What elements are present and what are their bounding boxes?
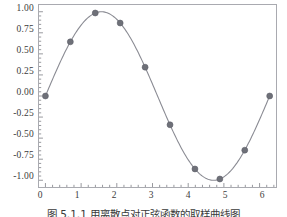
- y-tick-label: -0.50: [0, 129, 34, 139]
- y-tick-label: 0.50: [0, 45, 34, 55]
- data-point-marker: [67, 39, 73, 45]
- y-tick-label: -1.00: [0, 171, 34, 181]
- figure-container: 1.00 0.75 0.50 0.25 0.00 -0.25 -0.50 -0.…: [0, 0, 287, 217]
- data-point-marker: [117, 20, 123, 26]
- y-tick-label: 0.75: [0, 24, 34, 34]
- figure-caption: 图 5.1.1 用离散点对正弦函数的取样曲线图: [0, 208, 287, 217]
- x-tick-label: 5: [215, 190, 235, 201]
- data-point-marker: [167, 122, 173, 128]
- x-tick-label: 0: [30, 190, 50, 201]
- x-tick-label: 3: [141, 190, 161, 201]
- y-tick-label: 0.25: [0, 66, 34, 76]
- plot-canvas: [39, 5, 276, 187]
- y-tick-label: 0.00: [0, 87, 34, 97]
- x-tick-label: 6: [252, 190, 272, 201]
- data-point-marker: [142, 64, 148, 70]
- data-point-marker: [192, 166, 198, 172]
- data-point-marker: [92, 10, 98, 16]
- sine-curve-path: [45, 12, 269, 181]
- x-tick-label: 1: [67, 190, 87, 201]
- x-tick-label: 2: [104, 190, 124, 201]
- y-tick-label: -0.25: [0, 108, 34, 118]
- data-point-marker: [267, 93, 273, 99]
- data-point-marker: [217, 176, 223, 182]
- y-tick-label: -0.75: [0, 150, 34, 160]
- plot-frame: [38, 4, 277, 188]
- y-tick-label: 1.00: [0, 3, 34, 13]
- data-point-marker: [42, 93, 48, 99]
- sine-curve-layer: [45, 12, 269, 181]
- x-tick-label: 4: [178, 190, 198, 201]
- data-point-marker: [242, 147, 248, 153]
